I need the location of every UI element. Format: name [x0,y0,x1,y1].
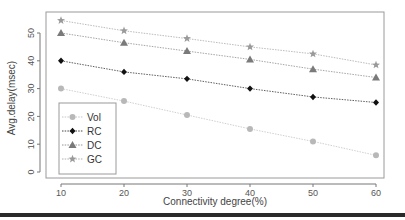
legend-label: Vol [87,112,101,123]
x-tick-label: 50 [308,188,318,198]
legend: VolRCDCGC [59,103,116,174]
y-tick-label: 50 [26,28,36,38]
y-tick-label: 10 [26,139,36,149]
series-dc [57,29,380,80]
x-tick-label: 10 [56,188,66,198]
legend-label: GC [87,154,102,165]
series-gc [57,16,380,68]
x-axis-label: Connectivity degree(%) [163,196,267,207]
line-chart: 01020304050 102030405060 Connectivity de… [0,0,405,220]
series-rc [58,58,379,106]
y-tick-label: 0 [26,169,36,174]
bottom-border [0,213,405,217]
legend-label: DC [87,140,101,151]
x-tick-label: 20 [119,188,129,198]
y-tick-label: 20 [26,111,36,121]
x-tick-label: 60 [371,188,381,198]
legend-label: RC [87,126,101,137]
y-tick-label: 40 [26,56,36,66]
y-axis: 01020304050 [26,28,40,175]
y-axis-label: Avg.delay(msec) [6,61,17,135]
y-tick-label: 30 [26,84,36,94]
